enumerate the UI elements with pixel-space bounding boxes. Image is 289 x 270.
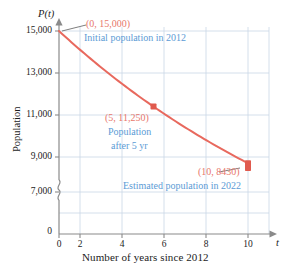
annotation-note-0: Initial population in 2012 bbox=[84, 33, 186, 43]
y-axis-arrow-icon bbox=[55, 18, 62, 26]
y-tick-label-0: 0 bbox=[8, 227, 52, 237]
annotation-note-10: Estimated population in 2022 bbox=[123, 181, 241, 191]
population-decay-chart: P(t) t Population Number of years since … bbox=[0, 0, 289, 270]
annotation-note-5-line2: after 5 yr bbox=[111, 141, 148, 151]
x-tick-label-0: 0 bbox=[49, 240, 69, 250]
x-tick-label-4: 4 bbox=[112, 240, 132, 250]
annotation-note-5-line1: Population bbox=[108, 127, 151, 137]
x-tick-label-8: 8 bbox=[196, 240, 216, 250]
y-axis bbox=[55, 18, 63, 234]
y-tick-label-15000: 15,000 bbox=[8, 26, 52, 36]
y-tick-label-7000: 7,000 bbox=[8, 187, 52, 197]
x-tick-label-10: 10 bbox=[238, 240, 258, 250]
data-point-0 bbox=[151, 103, 157, 109]
annotation-leader-lines bbox=[62, 25, 240, 172]
annotation-coord-10: (10, 8430) bbox=[198, 167, 240, 177]
x-tick-label-2: 2 bbox=[70, 240, 90, 250]
data-point-10 bbox=[245, 165, 251, 171]
annotation-coord-5: (5, 11,250) bbox=[105, 113, 149, 123]
annotation-coord-0: (0, 15,000) bbox=[86, 19, 130, 29]
x-tick-label-6: 6 bbox=[154, 240, 174, 250]
y-axis-symbol: P(t) bbox=[38, 9, 54, 20]
x-axis-title: Number of years since 2012 bbox=[82, 252, 209, 263]
y-tick-label-9000: 9,000 bbox=[8, 152, 52, 162]
x-axis bbox=[59, 230, 277, 238]
leader-line-point-0 bbox=[62, 25, 86, 31]
x-axis-symbol: t bbox=[276, 238, 279, 249]
y-axis-break-icon bbox=[58, 180, 60, 200]
y-tick-label-13000: 13,000 bbox=[8, 68, 52, 78]
population-curve bbox=[59, 31, 248, 163]
y-tick-label-11000: 11,000 bbox=[8, 110, 52, 120]
